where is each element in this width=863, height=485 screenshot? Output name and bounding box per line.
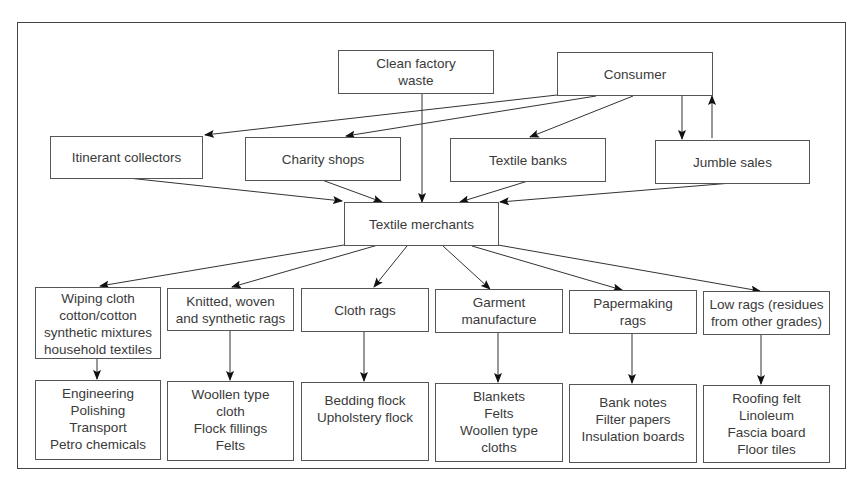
node-label: Textile merchants (369, 216, 474, 233)
node-label: cotton/cotton (59, 307, 136, 324)
node-clean-factory-waste: Clean factory waste (338, 50, 494, 94)
node-textile-banks: Textile banks (450, 138, 606, 182)
node-uses-wiping-cloth: Engineering Polishing Transport Petro ch… (35, 380, 161, 460)
node-label: Cloth rags (334, 302, 396, 319)
node-label: Jumble sales (693, 154, 772, 171)
node-label: waste (398, 72, 433, 89)
node-label: cloth (216, 403, 245, 420)
node-label: manufacture (461, 311, 536, 328)
node-label: Bedding flock (324, 392, 405, 409)
node-label: Petro chemicals (50, 436, 146, 453)
node-label: Papermaking (593, 295, 673, 312)
node-label: Floor tiles (737, 441, 796, 458)
node-label: Flock fillings (194, 420, 268, 437)
node-label: Fascia board (727, 424, 805, 441)
node-textile-merchants: Textile merchants (344, 202, 499, 246)
node-uses-low-rags: Roofing felt Linoleum Fascia board Floor… (703, 385, 830, 463)
node-label: Itinerant collectors (72, 149, 182, 166)
node-label: Low rags (residues (709, 296, 823, 313)
node-jumble-sales: Jumble sales (655, 140, 810, 184)
node-label: Insulation boards (582, 428, 685, 445)
node-label: household textiles (44, 341, 152, 358)
node-label: Upholstery flock (317, 409, 413, 426)
node-label: Wiping cloth (61, 290, 135, 307)
node-label: Garment (473, 294, 526, 311)
node-grade-low-rags: Low rags (residues from other grades) (703, 291, 830, 335)
node-grade-cloth-rags: Cloth rags (301, 288, 429, 332)
node-itinerant-collectors: Itinerant collectors (50, 136, 203, 179)
node-uses-cloth-rags: Bedding flock Upholstery flock (301, 382, 429, 461)
node-label: Roofing felt (732, 390, 800, 407)
node-label: Woollen type (460, 422, 538, 439)
node-label: Linoleum (739, 407, 794, 424)
node-grade-wiping-cloth: Wiping cloth cotton/cotton synthetic mix… (35, 287, 161, 359)
node-label: Filter papers (595, 411, 670, 428)
node-grade-papermaking-rags: Papermaking rags (569, 290, 697, 334)
node-uses-knitted-woven: Woollen type cloth Flock fillings Felts (167, 381, 294, 461)
node-label: Polishing (71, 402, 126, 419)
node-label: Bank notes (599, 394, 667, 411)
node-label: Consumer (604, 66, 666, 83)
node-label: Felts (216, 437, 245, 454)
node-label: Charity shops (282, 151, 365, 168)
node-uses-papermaking-rags: Bank notes Filter papers Insulation boar… (569, 384, 697, 463)
node-uses-garment-manufacture: Blankets Felts Woollen type cloths (435, 383, 563, 462)
node-label: Engineering (62, 385, 134, 402)
node-grade-garment-manufacture: Garment manufacture (435, 289, 563, 333)
node-label: Transport (69, 419, 126, 436)
node-label: Textile banks (489, 152, 567, 169)
node-charity-shops: Charity shops (245, 137, 401, 181)
node-consumer: Consumer (557, 52, 713, 96)
node-label: rags (620, 312, 646, 329)
node-label: synthetic mixtures (44, 324, 152, 341)
node-label: Blankets (473, 388, 525, 405)
node-grade-knitted-woven: Knitted, woven and synthetic rags (167, 288, 294, 331)
node-label: cloths (481, 439, 516, 456)
node-label: from other grades) (711, 313, 822, 330)
node-label: Clean factory (376, 55, 456, 72)
node-label: and synthetic rags (176, 310, 286, 327)
node-label: Felts (484, 405, 513, 422)
node-label: Woollen type (192, 386, 270, 403)
node-label: Knitted, woven (186, 293, 275, 310)
